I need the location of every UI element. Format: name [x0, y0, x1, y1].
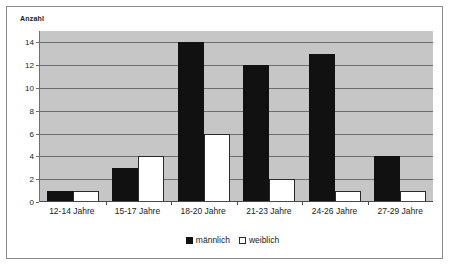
y-axis-tick-mark: [36, 202, 39, 203]
bar-weiblich[interactable]: [204, 134, 230, 202]
bar-maennlich[interactable]: [243, 65, 269, 202]
bar-groups: [40, 31, 433, 202]
legend-item-maennlich[interactable]: männlich: [186, 235, 230, 245]
bar-group: [237, 31, 303, 202]
bar-maennlich[interactable]: [112, 168, 138, 202]
legend-label: weiblich: [249, 235, 279, 245]
y-axis-tick-label: 8: [30, 106, 34, 115]
y-axis-tick-mark: [36, 111, 39, 112]
x-axis-category-label: 21-23 Jahre: [236, 206, 302, 216]
y-axis-tick-mark: [36, 42, 39, 43]
bar-group: [302, 31, 368, 202]
y-axis-tick-mark: [36, 65, 39, 66]
bar-weiblich[interactable]: [138, 156, 164, 202]
y-axis-tick-mark: [36, 88, 39, 89]
x-axis-category-label: 15-17 Jahre: [105, 206, 171, 216]
x-axis-line: [40, 201, 433, 202]
y-axis-tick-mark: [36, 134, 39, 135]
x-axis-category-label: 24-26 Jahre: [302, 206, 368, 216]
legend-swatch-icon: [186, 237, 193, 244]
bar-group: [171, 31, 237, 202]
y-axis-tick-label: 14: [25, 38, 34, 47]
bar-maennlich[interactable]: [309, 54, 335, 202]
plot-area: [39, 31, 433, 202]
y-axis-title: Anzahl: [20, 15, 44, 22]
bar-group: [368, 31, 434, 202]
bar-group: [106, 31, 172, 202]
chart-legend: männlichweiblich: [7, 235, 451, 245]
chart-frame: Anzahl 02468101214 12-14 Jahre15-17 Jahr…: [6, 6, 443, 259]
y-axis-tick-mark: [36, 179, 39, 180]
y-axis-tick-label: 2: [30, 175, 34, 184]
bar-weiblich[interactable]: [269, 179, 295, 202]
bar-maennlich[interactable]: [374, 156, 400, 202]
legend-swatch-icon: [239, 237, 246, 244]
legend-label: männlich: [196, 235, 230, 245]
x-axis-category-labels: 12-14 Jahre15-17 Jahre18-20 Jahre21-23 J…: [39, 206, 433, 216]
x-axis-category-label: 18-20 Jahre: [170, 206, 236, 216]
bar-maennlich[interactable]: [178, 42, 204, 202]
bar-group: [40, 31, 106, 202]
y-axis-tick-mark: [36, 156, 39, 157]
legend-item-weiblich[interactable]: weiblich: [239, 235, 279, 245]
y-axis-tick-label: 0: [30, 198, 34, 207]
x-axis-category-label: 27-29 Jahre: [367, 206, 433, 216]
x-axis-category-label: 12-14 Jahre: [39, 206, 105, 216]
y-axis-tick-label: 10: [25, 84, 34, 93]
y-axis-tick-label: 6: [30, 129, 34, 138]
plot-area-wrapper: 02468101214: [39, 31, 433, 202]
y-axis-tick-label: 4: [30, 152, 34, 161]
y-axis-tick-label: 12: [25, 61, 34, 70]
